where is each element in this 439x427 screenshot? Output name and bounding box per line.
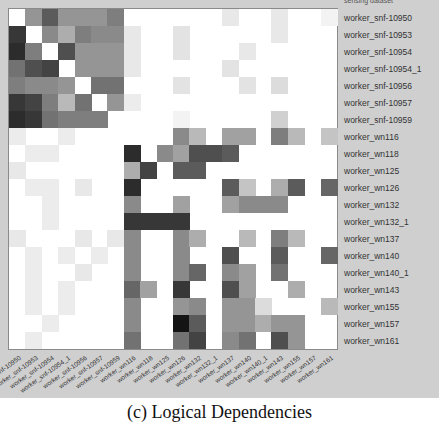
heatmap-cell (288, 281, 305, 298)
heatmap-cell (25, 9, 42, 26)
heatmap-cell (124, 230, 141, 247)
heatmap-cell (239, 196, 256, 213)
heatmap-cell (9, 230, 26, 247)
heatmap-cell (58, 281, 75, 298)
heatmap-cell (25, 247, 42, 264)
heatmap-cell (271, 332, 288, 349)
heatmap-cell (288, 332, 305, 349)
heatmap-cell (239, 43, 256, 60)
row-label: worker_snf-10956 (344, 81, 412, 91)
heatmap-cell (222, 332, 239, 349)
heatmap-cell (124, 145, 141, 162)
heatmap-cell (173, 298, 190, 315)
heatmap-cell (58, 247, 75, 264)
heatmap-cell (255, 298, 272, 315)
heatmap-cell (288, 179, 305, 196)
heatmap-cell (173, 315, 190, 332)
heatmap-cell (75, 60, 92, 77)
heatmap-cell (75, 94, 92, 111)
heatmap-cell (58, 94, 75, 111)
heatmap-cell (9, 43, 26, 60)
row-label: worker_wn132_1 (344, 217, 409, 227)
heatmap-cell (124, 281, 141, 298)
heatmap-cell (239, 230, 256, 247)
row-label: worker_wn143 (344, 285, 399, 295)
figure-panel: sensing dataset worker_snf-10950worker_s… (0, 0, 439, 398)
heatmap-cell (173, 230, 190, 247)
heatmap-cell (140, 213, 157, 230)
row-label: worker_snf-10959 (344, 115, 412, 125)
heatmap-cell (321, 179, 338, 196)
heatmap-cell (222, 9, 239, 26)
heatmap-cell (321, 9, 338, 26)
heatmap-cell (271, 230, 288, 247)
row-label: worker_wn140_1 (344, 268, 409, 278)
heatmap-cell (107, 230, 124, 247)
heatmap-cell (42, 26, 59, 43)
heatmap-cell (255, 315, 272, 332)
heatmap-cell (75, 26, 92, 43)
heatmap-cell (189, 332, 206, 349)
heatmap-cell (91, 247, 108, 264)
heatmap-cell (239, 128, 256, 145)
heatmap-cell (42, 94, 59, 111)
heatmap-cell (173, 128, 190, 145)
figure-caption: (c) Logical Dependencies (0, 402, 439, 423)
row-label: worker_snf-10957 (344, 98, 412, 108)
heatmap-cell (124, 264, 141, 281)
heatmap-cell (124, 315, 141, 332)
heatmap-cell (25, 332, 42, 349)
column-labels: worker_snf-10950worker_snf-10953worker_s… (8, 352, 338, 392)
heatmap-cell (91, 9, 108, 26)
heatmap-cell (189, 230, 206, 247)
heatmap-cell (173, 162, 190, 179)
heatmap-cell (271, 247, 288, 264)
heatmap-cell (25, 281, 42, 298)
heatmap-cell (222, 179, 239, 196)
heatmap-cell (271, 196, 288, 213)
heatmap-cell (25, 94, 42, 111)
heatmap-cell (271, 315, 288, 332)
row-label: worker_wn125 (344, 166, 399, 176)
heatmap-cell (107, 77, 124, 94)
heatmap-cell (173, 213, 190, 230)
heatmap-cell (222, 298, 239, 315)
row-label: worker_wn140 (344, 251, 399, 261)
heatmap-cell (58, 26, 75, 43)
heatmap-cell (321, 247, 338, 264)
heatmap-cell (124, 196, 141, 213)
heatmap-cell (25, 43, 42, 60)
heatmap-cell (58, 128, 75, 145)
heatmap-cell (42, 196, 59, 213)
heatmap-cell (173, 264, 190, 281)
heatmap-cell (157, 213, 174, 230)
heatmap-cell (173, 26, 190, 43)
top-clipped-label: sensing dataset (344, 0, 393, 6)
heatmap-cell (321, 128, 338, 145)
heatmap-cell (124, 43, 141, 60)
heatmap-cell (107, 26, 124, 43)
heatmap-cell (124, 162, 141, 179)
row-label: worker_wn157 (344, 319, 399, 329)
heatmap-cell (239, 77, 256, 94)
heatmap-cell (25, 111, 42, 128)
heatmap-cell (9, 162, 26, 179)
heatmap-cell (222, 60, 239, 77)
heatmap-cell (173, 281, 190, 298)
heatmap-cell (288, 128, 305, 145)
heatmap-cell (75, 43, 92, 60)
row-label: worker_wn155 (344, 302, 399, 312)
heatmap-cell (25, 298, 42, 315)
heatmap-cell (75, 264, 92, 281)
heatmap-cell (239, 298, 256, 315)
heatmap-cell (124, 247, 141, 264)
heatmap-cell (9, 26, 26, 43)
heatmap-cell (239, 281, 256, 298)
heatmap-cell (222, 128, 239, 145)
heatmap-cell (42, 315, 59, 332)
heatmap-cell (189, 264, 206, 281)
heatmap-cell (173, 111, 190, 128)
heatmap-cell (107, 60, 124, 77)
heatmap-cell (173, 196, 190, 213)
heatmap-cell (42, 60, 59, 77)
